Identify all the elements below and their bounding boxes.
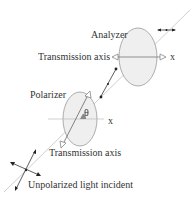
polarizer-transmission-axis-label: Transmission axis bbox=[49, 148, 121, 158]
polarizer-x-label: x bbox=[108, 116, 113, 126]
polarization-diagram: Analyzer Transmission axis x Polarizer θ… bbox=[0, 0, 194, 198]
analyzer-axis-arrow-right bbox=[160, 54, 166, 60]
incident-light-label: Unpolarized light incident bbox=[28, 180, 133, 190]
analyzer-axis-arrow-left bbox=[112, 54, 118, 60]
analyzer-transmission-axis-label: Transmission axis bbox=[38, 52, 110, 62]
analyzer-x-label: x bbox=[170, 52, 175, 62]
analyzer-label: Analyzer bbox=[91, 30, 128, 40]
theta-label: θ bbox=[84, 108, 89, 118]
polarizer-label: Polarizer bbox=[30, 90, 66, 100]
